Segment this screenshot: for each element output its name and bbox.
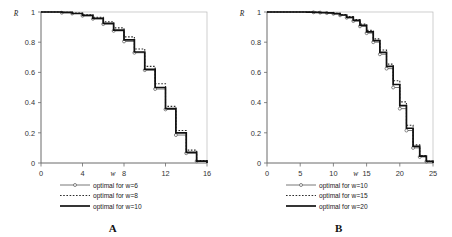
y-axis-title: R [239,9,245,18]
x-tick-label: 5 [298,169,302,178]
y-tick-label: 0.2 [25,129,35,138]
chart-panel-b: 00.20.40.60.810510152025Rwoptimal for w=… [226,0,452,237]
panel-caption-b: B [226,222,452,234]
x-tick-label: 10 [329,169,337,178]
panel-caption-a: A [0,222,226,234]
series-group [267,12,433,163]
series-marker [398,107,401,110]
chart-svg-a: 00.20.40.60.810481216Rwoptimal for w=6op… [0,0,226,215]
legend-marker [300,184,303,187]
y-tick-label: 0.2 [251,129,261,138]
legend-label: optimal for w=10 [319,182,368,190]
y-tick-label: 0.6 [25,68,35,77]
plot-frame [267,12,433,163]
legend-marker [74,184,77,187]
legend-item: optimal for w=10 [60,203,142,211]
y-tick-label: 1 [257,8,261,17]
series-line [267,12,433,163]
y-tick-label: 0.8 [251,38,261,47]
series-group [267,11,433,163]
series-marker [385,67,388,70]
legend-item: optimal for w=10 [286,182,368,190]
legend-item: optimal for w=15 [286,192,368,200]
legend-label: optimal for w=15 [319,192,368,200]
x-tick-label: 16 [203,169,211,178]
y-axis-title: R [13,9,19,18]
series-marker [378,53,381,56]
series-line [41,12,207,163]
series-line [267,12,433,163]
legend-label: optimal for w=10 [93,203,142,211]
y-tick-label: 0.4 [251,98,261,107]
y-tick-label: 0 [257,159,261,168]
series-marker [392,86,395,89]
legend-item: optimal for w=20 [286,203,368,211]
y-tick-label: 0.4 [25,98,35,107]
x-tick-label: 8 [122,169,126,178]
series-group [267,12,433,163]
x-tick-label: 25 [429,169,437,178]
legend-label: optimal for w=6 [93,182,138,190]
x-axis-title: w [111,169,116,178]
x-tick-label: 4 [80,169,84,178]
x-tick-label: 0 [265,169,269,178]
x-tick-label: 12 [161,169,169,178]
series-line [267,12,433,163]
chart-panel-a: 00.20.40.60.810481216Rwoptimal for w=6op… [0,0,226,237]
y-tick-label: 0.6 [251,68,261,77]
x-axis-title: w [353,169,358,178]
chart-svg-b: 00.20.40.60.810510152025Rwoptimal for w=… [226,0,452,215]
legend-label: optimal for w=20 [319,203,368,211]
legend-label: optimal for w=8 [93,192,138,200]
figure-container: 00.20.40.60.810481216Rwoptimal for w=6op… [0,0,452,237]
y-tick-label: 0 [31,159,35,168]
y-tick-label: 1 [31,8,35,17]
x-tick-label: 15 [362,169,370,178]
legend-item: optimal for w=8 [60,192,138,200]
series-group [41,12,207,163]
y-tick-label: 0.8 [25,38,35,47]
legend-item: optimal for w=6 [60,182,138,190]
series-marker [405,129,408,132]
x-tick-label: 20 [396,169,404,178]
x-tick-label: 0 [39,169,43,178]
series-marker [174,134,177,137]
